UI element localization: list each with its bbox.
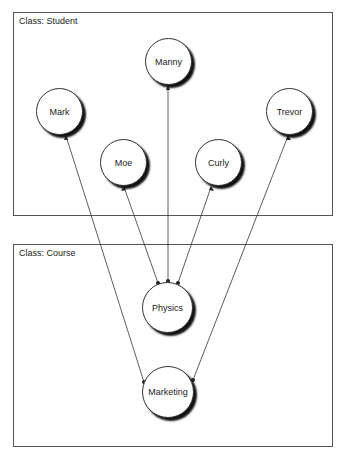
node-mark[interactable]: Mark: [36, 88, 83, 135]
node-moe-label: Moe: [115, 158, 133, 168]
node-trevor[interactable]: Trevor: [266, 88, 313, 135]
node-curly[interactable]: Curly: [195, 139, 242, 186]
node-manny-label: Manny: [155, 57, 182, 67]
node-trevor-label: Trevor: [277, 107, 303, 117]
arrowhead-icon: [286, 135, 291, 140]
node-manny[interactable]: Manny: [145, 38, 192, 85]
arrowhead-icon: [64, 135, 68, 140]
node-physics[interactable]: Physics: [142, 282, 193, 333]
node-marketing[interactable]: Marketing: [142, 366, 194, 418]
node-mark-label: Mark: [50, 107, 70, 117]
node-physics-label: Physics: [152, 303, 183, 313]
node-curly-label: Curly: [208, 158, 229, 168]
node-moe[interactable]: Moe: [100, 139, 147, 186]
arrowhead-icon: [166, 85, 170, 90]
edge-physics-moe: [124, 187, 158, 283]
node-marketing-label: Marketing: [148, 387, 188, 397]
edge-physics-curly: [178, 187, 211, 283]
